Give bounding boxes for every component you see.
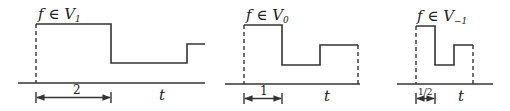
step-function	[36, 24, 205, 63]
panel-title: f ∈ V−1	[416, 7, 467, 26]
panel-title: f ∈ V1	[37, 5, 81, 24]
panel-v0: f ∈ V0 1 t	[225, 6, 360, 105]
panel-v1: f ∈ V1 2 t	[18, 5, 205, 104]
multiresolution-diagram: f ∈ V1 2 t f ∈ V0 1 t f ∈ V−1 1/2 t	[0, 0, 510, 111]
axis-label: t	[159, 86, 166, 104]
interval-label: 1	[260, 84, 268, 98]
interval-label: 2	[73, 83, 81, 97]
interval-label: 1/2	[418, 87, 432, 97]
axis-label: t	[458, 87, 465, 105]
panel-title: f ∈ V0	[245, 6, 289, 25]
panel-v-minus-1: f ∈ V−1 1/2 t	[397, 7, 493, 105]
axis-label: t	[324, 87, 331, 105]
step-function	[416, 26, 473, 65]
step-function	[244, 25, 358, 65]
